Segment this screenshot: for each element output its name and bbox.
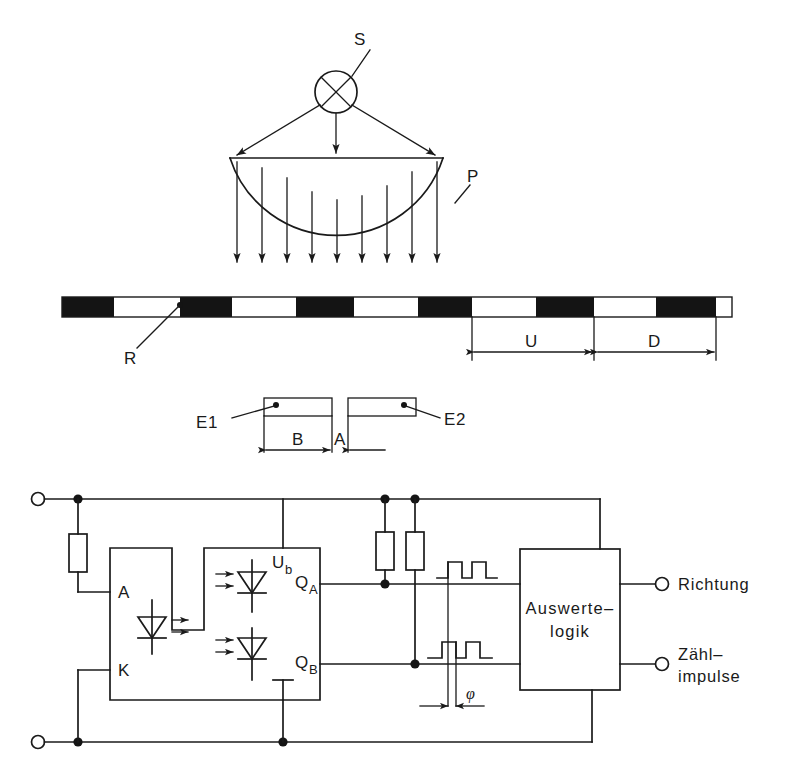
output-label-direction: Richtung bbox=[678, 575, 750, 593]
ub-pin-sublabel: b bbox=[285, 562, 292, 577]
detector-e1-dot bbox=[273, 402, 279, 408]
output-qb-label: Q bbox=[295, 653, 309, 672]
output-terminal-count[interactable] bbox=[656, 658, 669, 671]
grating-segment bbox=[296, 297, 354, 317]
grating-segment bbox=[354, 297, 418, 317]
resistor-led bbox=[69, 534, 87, 572]
resistor-pullup-b bbox=[406, 532, 424, 570]
phase-label: φ bbox=[466, 685, 475, 703]
grating-segment bbox=[536, 297, 594, 317]
source-label: S bbox=[354, 30, 366, 49]
grating-segment bbox=[472, 297, 536, 317]
lens-leader-line bbox=[455, 185, 470, 203]
grating-segment bbox=[716, 297, 732, 317]
waveform-channel-a bbox=[437, 562, 497, 578]
grating-segment bbox=[656, 297, 716, 317]
grating-label: R bbox=[124, 349, 137, 368]
a-dimension-label: A bbox=[334, 430, 346, 449]
node-dot-qa bbox=[380, 579, 389, 588]
evaluation-logic-box[interactable] bbox=[520, 549, 620, 690]
output-qa-label: Q bbox=[295, 573, 309, 592]
grating-segment bbox=[62, 297, 114, 317]
light-rays-group bbox=[237, 105, 435, 155]
detector-e2-dot bbox=[401, 402, 407, 408]
lens-label: P bbox=[467, 167, 479, 186]
logic-box-line1: Auswerte– bbox=[526, 599, 615, 617]
photodiode-a-symbol bbox=[216, 560, 266, 612]
light-ray-left bbox=[237, 105, 320, 155]
output-qa-sublabel: A bbox=[309, 582, 318, 597]
ub-pin-label: U bbox=[272, 553, 285, 572]
d-dimension-label: D bbox=[648, 332, 661, 351]
grating-scale-group: R U D bbox=[62, 297, 732, 368]
figure-canvas: S P R U bbox=[0, 0, 792, 775]
circuit-group: A K U b bbox=[32, 493, 750, 749]
grating-segment bbox=[232, 297, 296, 317]
grating-segment bbox=[594, 297, 656, 317]
grating-segment bbox=[180, 297, 232, 317]
supply-terminal-negative[interactable] bbox=[32, 736, 45, 749]
u-dimension-label: U bbox=[525, 332, 538, 351]
node-dot-qb bbox=[410, 659, 419, 668]
waveform-channel-b bbox=[428, 642, 492, 658]
light-ray-right bbox=[352, 105, 435, 155]
b-dimension-label: B bbox=[292, 430, 304, 449]
resistor-pullup-a bbox=[376, 532, 394, 570]
lens-group: P bbox=[230, 158, 479, 235]
output-label-count-line2: impulse bbox=[678, 667, 740, 685]
photodiode-b-symbol bbox=[216, 628, 266, 680]
detector-e1-label: E1 bbox=[196, 413, 218, 432]
grating-segments bbox=[62, 297, 732, 317]
emitter-led-symbol bbox=[138, 600, 188, 654]
light-source-group: S bbox=[315, 30, 370, 113]
logic-box-line2: logik bbox=[550, 622, 590, 640]
output-qb-sublabel: B bbox=[309, 662, 318, 677]
output-label-count-line1: Zähl– bbox=[678, 645, 723, 663]
detector-group: E1 E2 B A bbox=[196, 398, 466, 452]
schematic-svg: S P R U bbox=[0, 0, 792, 775]
grating-segment bbox=[418, 297, 472, 317]
supply-terminal-positive[interactable] bbox=[32, 493, 45, 506]
source-leader-line bbox=[352, 50, 370, 76]
cathode-pin-label: K bbox=[118, 661, 130, 680]
output-terminal-direction[interactable] bbox=[656, 578, 669, 591]
anode-pin-label: A bbox=[118, 583, 130, 602]
detector-e2-label: E2 bbox=[444, 410, 466, 429]
